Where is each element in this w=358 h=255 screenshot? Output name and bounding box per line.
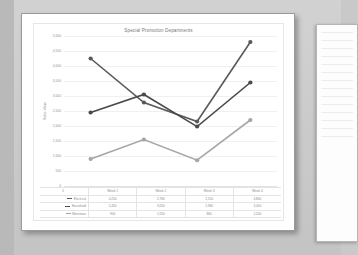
y-axis-tick-labels: 05001,0001,5002,0002,5003,0003,5004,0004… <box>40 36 62 186</box>
text-line <box>321 120 353 121</box>
text-line <box>321 48 353 49</box>
data-point-marker[interactable] <box>248 40 252 44</box>
table-cell: 3,450 <box>234 203 281 210</box>
table-cell: 2,150 <box>186 196 234 203</box>
legend-swatch-icon <box>65 206 70 207</box>
text-line <box>321 40 353 41</box>
table-cell: 1,550 <box>137 211 185 218</box>
table-row: Household2,4503,0501,9803,450 <box>40 203 281 211</box>
table-column-header: Week 4 <box>234 188 281 195</box>
y-axis-tick-label: 1,000 <box>53 154 61 158</box>
table-cell: 4,250 <box>89 196 137 203</box>
table-row: Electrical4,2502,7802,1504,800 <box>40 196 281 204</box>
plot-area-wrapper: Sales Value 05001,0001,5002,0002,5003,00… <box>34 36 279 186</box>
table-row-label: Electrical <box>40 196 89 203</box>
table-cell: 2,450 <box>89 203 137 210</box>
y-axis-tick-label: 4,000 <box>53 64 61 68</box>
table-cell: 2,780 <box>137 196 185 203</box>
series-line <box>91 83 251 127</box>
data-point-marker[interactable] <box>142 101 146 105</box>
data-point-marker[interactable] <box>88 111 92 115</box>
text-line <box>321 56 353 57</box>
text-line <box>321 96 353 97</box>
text-line <box>321 80 353 81</box>
text-line <box>321 104 353 105</box>
y-axis-tick-label: 4,500 <box>53 49 61 53</box>
data-point-marker[interactable] <box>195 125 199 129</box>
table-column-header: Week 3 <box>186 188 234 195</box>
y-axis-tick-label: 2,000 <box>53 124 61 128</box>
chart-title: Special Promotion Departments <box>34 28 283 33</box>
data-point-marker[interactable] <box>195 158 199 162</box>
y-axis-tick-label: 5,000 <box>53 34 61 38</box>
table-corner-label: 0 <box>40 188 89 195</box>
y-axis-tick-label: 3,000 <box>53 94 61 98</box>
text-line <box>321 32 353 33</box>
legend-swatch-icon <box>66 213 71 214</box>
plot-area[interactable] <box>64 36 277 186</box>
series-lines <box>64 36 277 186</box>
table-cell: 860 <box>186 211 234 218</box>
next-page-preview[interactable] <box>316 24 358 242</box>
data-point-marker[interactable] <box>142 138 146 142</box>
left-edge-strip <box>0 0 14 255</box>
data-point-marker[interactable] <box>142 93 146 97</box>
table-row-label: Menswear <box>40 211 89 218</box>
y-axis-tick-label: 500 <box>55 169 61 173</box>
text-line <box>321 72 353 73</box>
text-line <box>321 64 353 65</box>
table-column-header: Week 1 <box>89 188 137 195</box>
table-column-header: Week 2 <box>137 188 185 195</box>
table-header-row: 0Week 1Week 2Week 3Week 4 <box>40 187 281 196</box>
y-axis-tick-label: 2,500 <box>53 109 61 113</box>
table-cell: 2,200 <box>234 211 281 218</box>
series-line <box>91 120 251 160</box>
table-cell: 1,980 <box>186 203 234 210</box>
table-row-label: Household <box>40 203 89 210</box>
chart-data-table[interactable]: 0Week 1Week 2Week 3Week 4Electrical4,250… <box>40 187 281 218</box>
table-cell: 3,050 <box>137 203 185 210</box>
y-axis-tick-label: 3,500 <box>53 79 61 83</box>
data-point-marker[interactable] <box>248 118 252 122</box>
y-axis-tick-label: 1,500 <box>53 139 61 143</box>
series-line <box>91 42 251 122</box>
table-cell: 900 <box>89 211 137 218</box>
chart-container[interactable]: Special Promotion Departments Sales Valu… <box>33 23 284 221</box>
text-line <box>321 128 353 129</box>
data-point-marker[interactable] <box>195 120 199 124</box>
text-line <box>321 136 353 137</box>
data-point-marker[interactable] <box>88 57 92 61</box>
data-point-marker[interactable] <box>88 157 92 161</box>
data-point-marker[interactable] <box>248 81 252 85</box>
text-line <box>321 88 353 89</box>
chart-page[interactable]: Special Promotion Departments Sales Valu… <box>21 13 295 231</box>
text-line <box>321 112 353 113</box>
legend-swatch-icon <box>67 198 72 199</box>
table-cell: 4,800 <box>234 196 281 203</box>
table-row: Menswear9001,5508602,200 <box>40 211 281 219</box>
